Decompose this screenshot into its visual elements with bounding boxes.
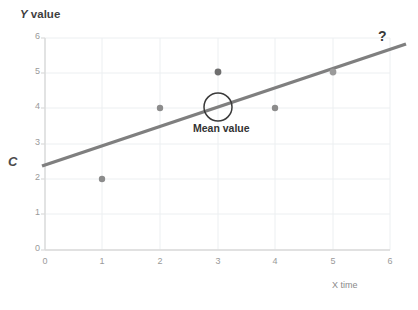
y-tick-label-4: 4 <box>26 101 40 111</box>
data-point <box>99 176 105 182</box>
y-tick-label-3: 3 <box>26 137 40 147</box>
x-tick-label-5: 5 <box>326 256 340 266</box>
y-tick-label-0: 0 <box>26 243 40 253</box>
y-tick-label-2: 2 <box>26 172 40 182</box>
x-tick-label-1: 1 <box>95 256 109 266</box>
y-tick-label-1: 1 <box>26 207 40 217</box>
x-tick-label-3: 3 <box>211 256 225 266</box>
x-tick-label-6: 6 <box>383 256 397 266</box>
mean-value-annotation: Mean value <box>193 122 250 134</box>
data-point <box>215 69 222 76</box>
extrapolation-annotation: ? <box>378 28 387 44</box>
x-tick-label-2: 2 <box>153 256 167 266</box>
y-tick-label-5: 5 <box>26 66 40 76</box>
data-point <box>157 105 163 111</box>
scatter-chart: Y value X time <box>0 0 418 310</box>
data-point <box>272 105 278 111</box>
x-tick-label-0: 0 <box>38 256 52 266</box>
x-tick-label-4: 4 <box>268 256 282 266</box>
y-tick-label-6: 6 <box>26 31 40 41</box>
data-point <box>330 69 337 76</box>
plot-surface <box>0 0 418 310</box>
intercept-annotation: C <box>8 154 17 169</box>
trend-line <box>42 44 406 166</box>
